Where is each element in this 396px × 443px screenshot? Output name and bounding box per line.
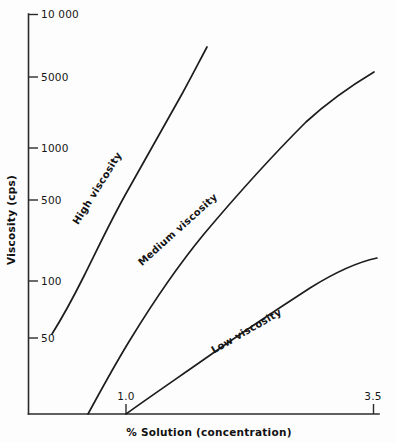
x-tick-label-3point5: 3.5 (364, 390, 381, 402)
viscosity-log-chart: 10 000 5000 1000 500 100 50 1.0 3.5 Visc… (0, 0, 396, 443)
curve-label-high-viscosity: High viscosity (70, 150, 123, 226)
x-axis-title: % Solution (concentration) (126, 426, 291, 438)
y-tick-label-10000: 10 000 (41, 8, 79, 20)
y-tick-label-1000: 1000 (41, 142, 69, 154)
x-tick-label-1point0: 1.0 (117, 390, 134, 402)
y-axis-title: Viscosity (cps) (5, 175, 17, 265)
y-tick-label-500: 500 (41, 194, 62, 206)
chart-figure: 10 000 5000 1000 500 100 50 1.0 3.5 Visc… (0, 0, 396, 443)
curve-label-low-viscosity: Low viscosity (209, 306, 283, 355)
y-tick-label-5000: 5000 (41, 71, 69, 83)
curve-low-viscosity (126, 258, 377, 414)
y-tick-label-100: 100 (41, 275, 62, 287)
curve-high-viscosity (52, 47, 207, 334)
curve-medium-viscosity (88, 72, 374, 414)
